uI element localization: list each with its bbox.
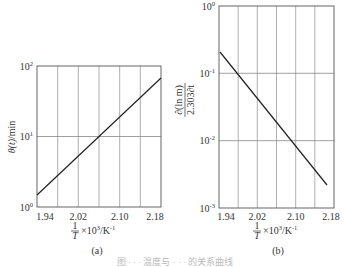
chart-a-sublabel: (a): [91, 245, 102, 257]
chart-b-ytick-0.1: 10-1: [200, 67, 215, 79]
chart-a-ytick-10: 101: [20, 130, 33, 142]
chart-a: 102 101 100 1.94 2.02 2.10 2.18 θ(t)/min…: [6, 60, 164, 257]
chart-b-xtick: 2.10: [287, 211, 305, 222]
chart-a-ylabel: θ(t)/min: [6, 121, 18, 154]
chart-b-xlabel: 1 T ×103/K-1: [253, 220, 297, 241]
chart-a-ytick-1: 100: [20, 201, 33, 213]
frac-denominator: T: [254, 230, 261, 241]
chart-b: 100 10-1 10-2 10-3 1.94 2.02 2.10 2.18 ∂…: [173, 0, 340, 257]
chart-b-sublabel: (b): [272, 245, 284, 257]
chart-a-xlabel: 1 T ×103/K-1: [71, 220, 115, 241]
chart-a-xtick: 1.94: [36, 211, 54, 222]
chart-b-xtick: 1.94: [217, 211, 235, 222]
figure-caption: 图 · · · 温度与 · · · 的关系曲线: [117, 256, 234, 267]
chart-a-xlabel-rest: ×103/K-1: [81, 224, 115, 236]
chart-a-xtick: 2.10: [111, 211, 129, 222]
chart-b-vgrid: [238, 6, 315, 208]
ylabel-numerator: ∂(ln m): [173, 85, 185, 115]
chart-b-series-line: [220, 52, 327, 185]
chart-b-ylabel: ∂(ln m) 2.303∂t: [173, 83, 196, 117]
chart-b-ytick-0.01: 10-2: [200, 134, 215, 146]
chart-b-xtick: 2.18: [322, 211, 340, 222]
chart-a-ytick-100: 102: [20, 60, 33, 72]
chart-a-xtick: 2.18: [146, 211, 164, 222]
figure: 102 101 100 1.94 2.02 2.10 2.18 θ(t)/min…: [0, 0, 345, 267]
ylabel-denominator: 2.303∂t: [185, 85, 196, 115]
chart-b-xlabel-rest: ×103/K-1: [263, 224, 297, 236]
frac-denominator: T: [72, 230, 79, 241]
chart-b-ytick-0.001: 10-3: [200, 202, 215, 214]
chart-b-ytick-1: 100: [202, 0, 215, 12]
